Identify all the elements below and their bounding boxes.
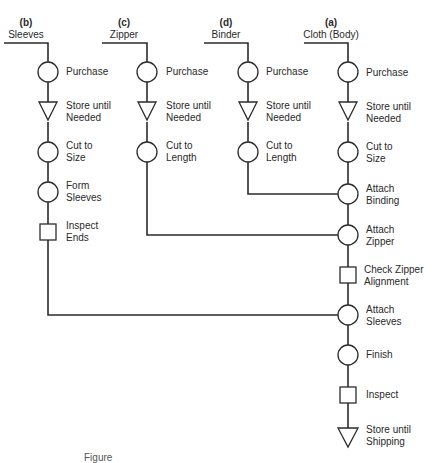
operation-icon — [137, 62, 157, 82]
header-letter: (b) — [6, 17, 46, 29]
operation-icon — [238, 62, 258, 82]
header-letter: (c) — [104, 17, 144, 29]
zipper-join-line — [147, 162, 338, 235]
step-label: Cut toLength — [266, 140, 297, 164]
header-cloth-body: (a) Cloth (Body) — [296, 17, 366, 41]
operation-icon — [338, 225, 358, 245]
step-label: Store untilNeeded — [366, 101, 411, 125]
header-name: Cloth (Body) — [303, 29, 359, 40]
step-label: Store untilNeeded — [166, 100, 211, 124]
step-label: Check ZipperAlignment — [364, 264, 423, 288]
header-zipper: (c) Zipper — [104, 17, 144, 41]
header-name: Binder — [212, 29, 241, 40]
storage-triangle-icon — [138, 102, 156, 120]
step-label: Purchase — [66, 66, 108, 78]
header-line-sleeves — [4, 43, 48, 62]
step-label: Finish — [366, 349, 393, 361]
step-label: Store untilNeeded — [266, 100, 311, 124]
step-label: FormSleeves — [66, 180, 102, 204]
step-label: AttachSleeves — [366, 304, 402, 328]
operation-icon — [338, 62, 358, 82]
step-label: Cut toLength — [166, 140, 197, 164]
header-name: Zipper — [110, 29, 138, 40]
step-label: Purchase — [166, 66, 208, 78]
header-letter: (a) — [296, 17, 366, 29]
storage-triangle-icon — [338, 428, 358, 447]
inspection-square-icon — [40, 224, 56, 240]
step-label: AttachZipper — [366, 224, 394, 248]
header-line-cloth — [304, 43, 348, 62]
header-line-binder — [204, 43, 248, 62]
operation-icon — [137, 142, 157, 162]
operation-icon — [338, 184, 358, 204]
operation-icon — [338, 142, 358, 162]
operation-icon — [38, 182, 58, 202]
step-label: AttachBinding — [366, 183, 399, 207]
operation-icon — [338, 345, 358, 365]
header-letter: (d) — [206, 17, 246, 29]
sleeves-join-line — [48, 240, 338, 315]
binder-join-line — [248, 162, 338, 194]
storage-triangle-icon — [39, 102, 57, 120]
operation-icon — [38, 62, 58, 82]
header-sleeves: (b) Sleeves — [6, 17, 46, 41]
storage-triangle-icon — [239, 102, 257, 120]
step-label: Cut toSize — [66, 140, 93, 164]
step-label: Inspect — [366, 389, 398, 401]
storage-triangle-icon — [339, 102, 357, 120]
figure-caption: Figure — [84, 452, 112, 463]
step-label: Store untilShipping — [366, 424, 411, 448]
step-label: InspectEnds — [66, 220, 98, 244]
operation-icon — [238, 142, 258, 162]
step-label: Cut toSize — [366, 141, 393, 165]
step-label: Purchase — [266, 66, 308, 78]
header-binder: (d) Binder — [206, 17, 246, 41]
step-label: Store untilNeeded — [66, 100, 111, 124]
inspection-square-icon — [340, 267, 356, 283]
inspection-square-icon — [340, 387, 356, 403]
header-name: Sleeves — [8, 29, 44, 40]
operation-icon — [38, 142, 58, 162]
operation-icon — [338, 305, 358, 325]
header-line-zipper — [102, 43, 147, 62]
step-label: Purchase — [366, 67, 408, 79]
